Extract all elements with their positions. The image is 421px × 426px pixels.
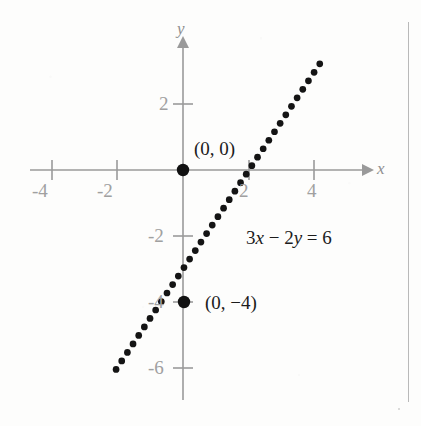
line-dot (209, 222, 216, 229)
line-dot (299, 86, 306, 93)
y-intercept-point-label: (0, −4) (205, 293, 257, 312)
equation-term-3: 3 (246, 227, 256, 248)
line-dot (265, 137, 272, 144)
line-dot (288, 103, 295, 110)
line-dot (260, 145, 267, 152)
line-dot (311, 69, 318, 76)
line-dot (254, 154, 261, 161)
y-tick-label-neg2: -2 (148, 226, 164, 245)
point-y-intercept (178, 296, 190, 308)
line-dot (169, 281, 176, 288)
line-dot (226, 196, 233, 203)
line-dot (316, 61, 323, 68)
x-tick-label-2: 2 (239, 181, 249, 200)
line-dot (277, 120, 284, 127)
line-dot (282, 111, 289, 118)
line-dot (186, 256, 193, 263)
page-edge-rule (408, 22, 409, 402)
line-dot (271, 128, 278, 135)
line-dot (135, 332, 142, 339)
line-dot (147, 315, 154, 322)
line-dot (181, 264, 188, 271)
line-dot (130, 341, 137, 348)
line-dot (232, 188, 239, 195)
y-tick-label-neg6: -6 (148, 358, 164, 377)
line-dot (294, 94, 301, 101)
line-dot (192, 247, 199, 254)
equation-term-2: 2 (284, 227, 294, 248)
x-tick-label-neg2: -2 (97, 181, 113, 200)
equation-operator-minus: − (264, 227, 284, 248)
line-dot (249, 162, 256, 169)
equation-annotation: 3x − 2y = 6 (246, 228, 332, 247)
line-dot (141, 324, 148, 331)
line-dot (118, 358, 125, 365)
equation-var-x: x (256, 227, 264, 248)
coordinate-plane-svg (0, 0, 421, 426)
line-dot (164, 290, 171, 297)
paper-speck (398, 408, 400, 410)
line-dot (243, 171, 250, 178)
line-dot (215, 213, 222, 220)
x-tick-label-4: 4 (307, 181, 317, 200)
x-axis (30, 160, 374, 180)
y-axis (173, 36, 193, 400)
line-dot (203, 230, 210, 237)
line-dot (113, 366, 120, 373)
x-axis-label: x (377, 160, 385, 177)
origin-point-label: (0, 0) (194, 139, 235, 158)
line-dot (198, 239, 205, 246)
line-dot (124, 349, 131, 356)
equation-line-dotted (113, 61, 323, 373)
line-dot (305, 77, 312, 84)
y-tick-label-neg4: -4 (148, 292, 164, 311)
equation-var-y: y (294, 227, 302, 248)
line-dot (175, 273, 182, 280)
equation-rhs: 6 (322, 227, 332, 248)
equation-operator-equals: = (302, 227, 322, 248)
graph-figure: y x -4 -2 2 4 2 -2 -4 -6 (0, 0) (0, −4) … (0, 0, 421, 426)
point-origin (177, 164, 189, 176)
y-axis-label: y (177, 20, 185, 37)
y-tick-label-2: 2 (159, 94, 169, 113)
line-dot (220, 205, 227, 212)
x-tick-label-neg4: -4 (32, 181, 48, 200)
